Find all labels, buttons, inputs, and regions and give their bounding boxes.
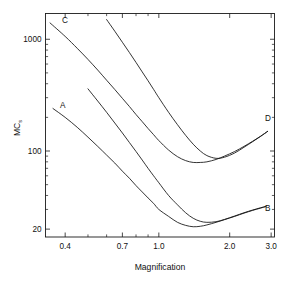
curve-group bbox=[50, 20, 268, 227]
y-axis-ticks bbox=[46, 39, 275, 229]
y-tick-label: 100 bbox=[28, 147, 42, 156]
y-tick-label: 1000 bbox=[23, 35, 42, 44]
curve-b bbox=[88, 89, 266, 223]
y-tick-label: 20 bbox=[32, 225, 42, 234]
curve-label-c: C bbox=[62, 16, 68, 25]
plot-frame bbox=[46, 14, 275, 238]
curve-label-a: A bbox=[60, 101, 66, 110]
log-log-line-chart: 0.40.71.02.03.0 201001000 Magnification … bbox=[0, 0, 293, 282]
curve-d bbox=[107, 20, 268, 159]
x-axis-title: Magnification bbox=[135, 262, 186, 272]
x-tick-label: 2.0 bbox=[224, 242, 236, 251]
x-tick-label: 3.0 bbox=[265, 242, 277, 251]
y-axis-title-group: MCs bbox=[12, 120, 23, 136]
x-axis-tick-labels: 0.40.71.02.03.0 bbox=[59, 242, 277, 251]
curve-label-d: D bbox=[265, 114, 271, 123]
curve-c bbox=[50, 23, 268, 163]
y-axis-title: MCs bbox=[12, 120, 23, 136]
y-axis-tick-labels: 201001000 bbox=[23, 35, 42, 234]
x-axis-ticks bbox=[65, 14, 271, 238]
x-tick-label: 1.0 bbox=[153, 242, 165, 251]
curve-label-b: B bbox=[265, 204, 271, 213]
chart-figure: 0.40.71.02.03.0 201001000 Magnification … bbox=[0, 0, 293, 282]
curve-a bbox=[53, 109, 266, 227]
x-tick-label: 0.4 bbox=[59, 242, 71, 251]
x-tick-label: 0.7 bbox=[117, 242, 129, 251]
